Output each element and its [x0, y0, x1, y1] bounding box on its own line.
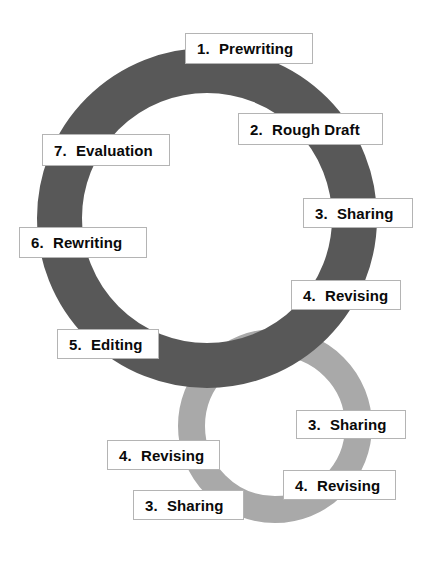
label-sharing-lower-right[interactable]: 3. Sharing	[296, 410, 406, 439]
label-revising-upper[interactable]: 4. Revising	[291, 280, 401, 310]
label-evaluation[interactable]: 7. Evaluation	[42, 134, 170, 166]
label-number: 7.	[54, 142, 76, 159]
label-rewriting[interactable]: 6. Rewriting	[19, 227, 147, 258]
label-number: 5.	[69, 336, 91, 353]
label-rough-draft[interactable]: 2. Rough Draft	[238, 113, 383, 145]
label-number: 1.	[197, 40, 219, 57]
label-text: Sharing	[167, 497, 224, 514]
label-sharing-bottom[interactable]: 3. Sharing	[133, 490, 244, 520]
label-text: Revising	[141, 447, 204, 464]
label-revising-lower-right[interactable]: 4. Revising	[283, 470, 396, 500]
label-revising-lower-left[interactable]: 4. Revising	[107, 440, 220, 470]
label-number: 3.	[308, 416, 330, 433]
label-number: 4.	[119, 447, 141, 464]
label-text: Sharing	[330, 416, 387, 433]
label-text: Revising	[317, 477, 380, 494]
label-text: Revising	[325, 287, 388, 304]
label-text: Rough Draft	[272, 121, 360, 138]
label-text: Rewriting	[53, 234, 122, 251]
label-editing[interactable]: 5. Editing	[57, 329, 159, 359]
label-number: 2.	[250, 121, 272, 138]
label-text: Sharing	[337, 205, 394, 222]
label-number: 4.	[295, 477, 317, 494]
label-text: Editing	[91, 336, 143, 353]
label-number: 6.	[31, 234, 53, 251]
label-number: 3.	[145, 497, 167, 514]
diagram-canvas: 1. Prewriting 2. Rough Draft 7. Evaluati…	[0, 0, 432, 585]
label-sharing-upper[interactable]: 3. Sharing	[303, 198, 413, 228]
label-text: Evaluation	[76, 142, 153, 159]
label-number: 4.	[303, 287, 325, 304]
label-prewriting[interactable]: 1. Prewriting	[185, 33, 313, 64]
label-number: 3.	[315, 205, 337, 222]
label-text: Prewriting	[219, 40, 293, 57]
